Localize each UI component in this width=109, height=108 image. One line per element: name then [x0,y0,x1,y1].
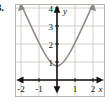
grid-lines-horizontal [16,8,104,80]
y-tick-label-2: 2 [49,40,54,50]
exercise-number: 3. [0,1,4,13]
x-axis [17,77,104,84]
y-tick-label-3: 3 [49,22,54,32]
x-tick-label-neg2: -2 [17,84,25,94]
graph-panel: -2 -1 1 2 1 2 3 4 y x [15,4,105,97]
x-axis-name: x [98,84,103,94]
y-tick-label-4: 4 [49,5,54,14]
x-tick-label-1: 1 [73,84,78,94]
exercise-figure: 3. [0,0,109,108]
coordinate-plane: -2 -1 1 2 1 2 3 4 y x [16,5,104,96]
y-axis-name: y [62,6,67,16]
x-tick-label-2: 2 [91,84,96,94]
x-tick-label-neg1: -1 [35,84,43,94]
y-tick-label-1: 1 [49,58,54,68]
